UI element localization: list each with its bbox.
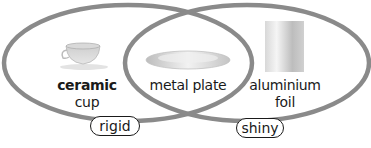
venn-diagram: [0, 0, 371, 148]
item-metal-plate: metal plate: [142, 77, 234, 94]
plate-icon: [146, 51, 230, 69]
set-label-rigid: rigid: [90, 116, 140, 136]
item-ceramic-cup-bold: ceramic: [57, 77, 117, 93]
item-aluminium-foil: aluminium foil: [247, 77, 323, 111]
foil-roll-icon: [265, 21, 304, 72]
item-ceramic-cup: ceramic cup: [44, 77, 130, 111]
item-ceramic-cup-rest: cup: [75, 94, 100, 110]
cup-icon: [60, 43, 108, 70]
set-label-shiny: shiny: [236, 118, 284, 138]
item-aluminium-foil-line2: foil: [247, 94, 323, 111]
item-aluminium-foil-line1: aluminium: [247, 77, 323, 94]
